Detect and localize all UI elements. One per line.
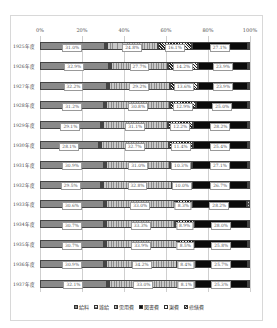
data-label: 23.9%: [213, 63, 233, 71]
bar-segment: 33.9%: [106, 240, 177, 248]
data-label: 31.2%: [62, 103, 82, 111]
bar-segment: 33.0%: [109, 280, 178, 288]
data-label: 32.2%: [64, 83, 84, 91]
x-tick-label: 60%: [160, 27, 171, 33]
bar-segment: 14.2%: [168, 62, 198, 70]
legend-item: 給料: [74, 303, 89, 310]
legend-swatch-icon: [164, 305, 168, 309]
data-label: 16.1%: [165, 44, 185, 52]
stacked-bar: 32.2%29.2%13.6%23.9%: [40, 82, 250, 90]
data-label: 25.7%: [211, 261, 231, 269]
bar-segment: 32.1%: [40, 280, 107, 288]
legend-label: 雑給: [99, 303, 109, 310]
x-tick-label: 40%: [118, 27, 129, 33]
stacked-bar: 32.9%27.7%14.2%23.9%: [40, 62, 250, 70]
data-label: 8.5%: [177, 242, 194, 250]
data-label: 29.5%: [61, 182, 81, 190]
bar-segment: [248, 82, 250, 90]
bar-segment: 32.2%: [40, 82, 107, 90]
row-label: 1930年度: [13, 142, 39, 148]
bar-segment: 11.4%: [169, 141, 193, 149]
bar-segment: 16.1%: [158, 42, 192, 50]
bar-segment: 32.7%: [101, 141, 169, 149]
bar-segment: 30.6%: [40, 200, 104, 208]
data-label: 32.7%: [125, 143, 145, 151]
data-label: 32.1%: [64, 281, 84, 289]
bar-segment: 8.1%: [178, 280, 195, 288]
bar-segment: 13.6%: [170, 82, 198, 90]
data-label: 28.0%: [211, 222, 231, 230]
x-tick-label: 20%: [76, 27, 87, 33]
legend-item: 需用費: [114, 303, 134, 310]
data-label: 25.4%: [210, 143, 230, 151]
bar-segment: 8.5%: [177, 240, 195, 248]
row-label: 1935年度: [13, 241, 39, 247]
row-label: 1928年度: [13, 102, 39, 108]
row-label: 1929年度: [13, 122, 39, 128]
data-label: 27.1%: [210, 162, 230, 170]
bar-segment: 12.9%: [170, 101, 197, 109]
data-label: 30.8%: [128, 103, 148, 111]
bar-segment: 28.0%: [194, 220, 248, 228]
bar-segment: [248, 121, 250, 129]
bar-segment: 30.8%: [106, 101, 170, 109]
data-label: 33.0%: [133, 281, 153, 289]
bar-segment: [248, 220, 250, 228]
row-label: 1933年度: [13, 201, 39, 207]
bar-segment: 25.0%: [196, 101, 248, 109]
bar-segment: [248, 280, 251, 288]
bar-segment: [248, 240, 250, 248]
data-label: 26.7%: [210, 182, 230, 190]
row-label: 1937年度: [13, 281, 39, 287]
legend-swatch-icon: [184, 305, 188, 309]
bar-segment: 33.3%: [106, 220, 175, 228]
bar-segment: 28.1%: [40, 141, 99, 149]
bar-segment: 30.7%: [40, 240, 104, 248]
data-label: 8.1%: [178, 281, 195, 289]
stacked-bar: 30.9%31.0%10.3%27.1%: [40, 161, 250, 169]
row-label: 1934年度: [13, 221, 39, 227]
data-label: 12.9%: [173, 103, 193, 111]
data-label: 27.1%: [210, 44, 230, 52]
data-label: 32.8%: [128, 182, 148, 190]
data-label: 28.2%: [209, 202, 229, 210]
bar-segment: 31.0%: [106, 161, 170, 169]
legend-label: 図書費: [144, 303, 159, 310]
stacked-bar: 31.0%24.8%16.1%27.1%: [40, 42, 250, 50]
bar-segment: 23.9%: [198, 62, 248, 70]
data-label: 14.2%: [173, 63, 193, 71]
bar-segment: 25.4%: [193, 141, 248, 149]
bar-segment: 25.8%: [194, 240, 248, 248]
data-label: 25.8%: [211, 242, 231, 250]
bar-segment: [248, 42, 250, 50]
bar-segment: 25.7%: [195, 260, 248, 268]
legend-item: 謝費: [164, 303, 179, 310]
bar-segment: 29.5%: [40, 181, 101, 189]
data-label: 30.9%: [62, 162, 82, 170]
bar-segment: 31.1%: [103, 121, 168, 129]
bar-segment: 27.7%: [111, 62, 169, 70]
legend-label: 修繕費: [189, 303, 204, 310]
data-label: 13.6%: [174, 83, 194, 91]
bar-segment: 31.0%: [40, 42, 105, 50]
bar-segment: [248, 181, 250, 189]
data-label: 27.7%: [130, 63, 150, 71]
stacked-bar: 29.1%31.1%12.2%28.2%: [40, 121, 250, 129]
data-label: 33.0%: [130, 202, 150, 210]
x-tick-label: 0%: [36, 27, 44, 33]
bar-segment: 8.4%: [177, 260, 194, 268]
row-label: 1932年度: [13, 182, 39, 188]
bar-segment: 24.8%: [107, 42, 159, 50]
row-label: 1925年度: [13, 43, 39, 49]
bar-segment: 29.2%: [109, 82, 170, 90]
legend: 給料雑給需用費図書費謝費修繕費: [0, 303, 277, 310]
bar-segment: [248, 141, 250, 149]
bar-segment: [248, 260, 250, 268]
stacked-bar: 30.7%33.3%8.9%28.0%: [40, 220, 250, 228]
data-label: 10.3%: [171, 162, 191, 170]
bar-segment: 25.3%: [195, 280, 248, 288]
x-tick-label: 100%: [243, 27, 257, 33]
stacked-bar: 29.5%32.8%10.0%26.7%: [40, 181, 250, 189]
bar-segment: 27.1%: [192, 161, 248, 169]
data-label: 25.3%: [211, 281, 231, 289]
